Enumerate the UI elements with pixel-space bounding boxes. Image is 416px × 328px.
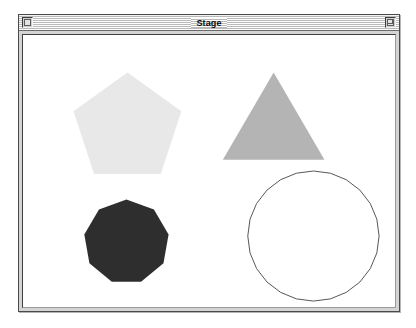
stage-window[interactable]: Stage	[18, 14, 400, 312]
zoom-box-icon[interactable]	[385, 17, 396, 28]
shape-circle[interactable]	[248, 171, 379, 301]
window-title-text: Stage	[191, 18, 226, 28]
window-title: Stage	[19, 16, 399, 30]
shape-nonagon[interactable]	[84, 200, 168, 282]
shape-pentagon[interactable]	[74, 72, 182, 174]
window-title-bar[interactable]: Stage	[19, 15, 399, 31]
shape-triangle[interactable]	[223, 72, 325, 159]
stage-canvas[interactable]	[23, 35, 395, 307]
stage-shapes-svg	[23, 35, 395, 307]
stage-content-frame	[22, 34, 396, 308]
zoom-box-inner-icon	[387, 19, 394, 26]
